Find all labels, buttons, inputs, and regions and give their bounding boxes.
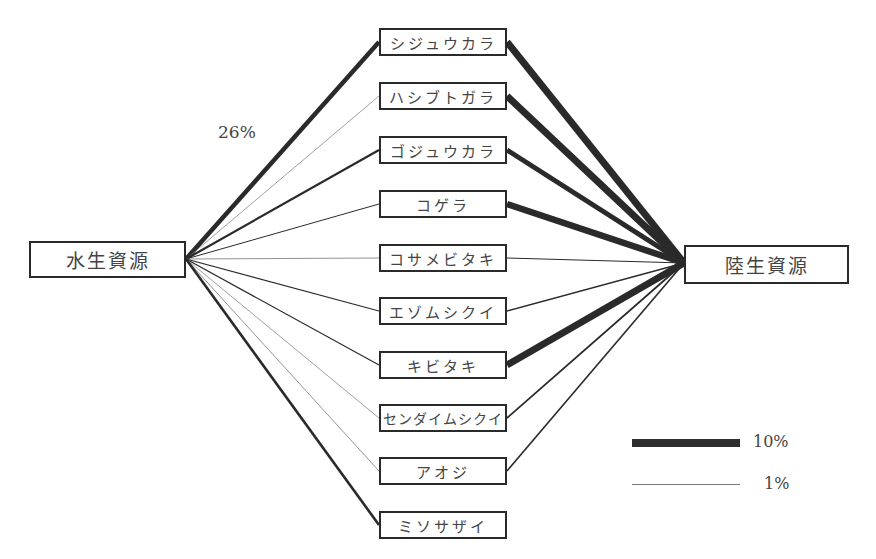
species-box: キビタキ — [379, 351, 507, 379]
species-box: ハシブトガラ — [379, 82, 507, 110]
species-box: シジュウカラ — [379, 28, 507, 56]
aquatic-link — [186, 259, 379, 365]
species-box: エゾムシクイ — [379, 297, 507, 325]
legend-line-10 — [632, 439, 740, 447]
terrestrial-link — [507, 150, 684, 263]
species-box: ミソサザイ — [379, 511, 507, 539]
terrestrial-link — [507, 96, 684, 263]
legend-label-10: 10% — [753, 432, 789, 451]
terrestrial-link — [507, 263, 684, 365]
aquatic-link — [186, 258, 379, 259]
species-label: ミソサザイ — [398, 515, 488, 536]
aquatic-link — [186, 96, 379, 259]
species-box: アオジ — [379, 457, 507, 485]
aquatic-link — [186, 150, 379, 259]
species-label: ハシブトガラ — [389, 86, 497, 107]
species-label: コゲラ — [416, 194, 470, 215]
terrestrial-link — [507, 42, 684, 263]
species-label: シジュウカラ — [390, 32, 497, 53]
hub-terrestrial-label: 陸生資源 — [725, 251, 809, 278]
hub-terrestrial-resources: 陸生資源 — [684, 245, 849, 284]
aquatic-link — [186, 42, 379, 259]
species-label: アオジ — [416, 461, 470, 482]
species-label: センダイムシクイ — [383, 408, 503, 428]
species-label: エゾムシクイ — [389, 301, 497, 322]
terrestrial-link — [507, 258, 684, 263]
terrestrial-link — [507, 263, 684, 418]
species-box: コゲラ — [379, 190, 507, 218]
legend-line-1 — [632, 484, 740, 485]
species-box: ゴジュウカラ — [379, 136, 507, 164]
species-box: コサメビタキ — [379, 244, 507, 272]
legend-label-1: 1% — [764, 474, 789, 493]
aquatic-link — [186, 259, 379, 525]
species-label: ゴジュウカラ — [390, 140, 497, 161]
species-label: コサメビタキ — [389, 248, 497, 269]
hub-aquatic-resources: 水生資源 — [29, 241, 186, 278]
annotation-percent: 26% — [218, 122, 256, 142]
species-box: センダイムシクイ — [379, 404, 507, 432]
species-label: キビタキ — [407, 355, 479, 376]
aquatic-link — [186, 204, 379, 259]
hub-aquatic-label: 水生資源 — [66, 246, 150, 273]
aquatic-link — [186, 259, 379, 311]
aquatic-link — [186, 259, 379, 471]
